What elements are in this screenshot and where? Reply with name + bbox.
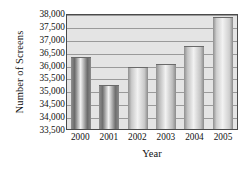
y-tick-label: 33,500 — [25, 126, 65, 135]
y-tick-label: 34,500 — [25, 100, 65, 109]
x-tick-label: 2001 — [95, 131, 124, 145]
bar-slot — [180, 15, 208, 129]
y-tick-label: 35,500 — [25, 74, 65, 83]
y-tick-label: 37,500 — [25, 22, 65, 31]
y-tick-label: 34,000 — [25, 113, 65, 122]
x-axis-title: Year — [66, 148, 238, 159]
bar-2001 — [99, 85, 119, 129]
y-tick-label: 36,500 — [25, 48, 65, 57]
y-tick-label: 35,000 — [25, 87, 65, 96]
bar-2000 — [71, 57, 91, 129]
y-axis-tick-labels: 38,00037,50037,00036,50036,00035,50035,0… — [25, 14, 65, 130]
x-tick-label: 2005 — [209, 131, 238, 145]
bar-2003 — [156, 64, 176, 129]
y-tick-label: 36,000 — [25, 61, 65, 70]
plot-area — [66, 14, 238, 130]
bar-slot — [95, 15, 123, 129]
bar-chart: Number of Screens 38,00037,50037,00036,5… — [0, 0, 249, 171]
y-tick-label: 38,000 — [25, 10, 65, 19]
y-tick-label: 37,000 — [25, 35, 65, 44]
bar-slot — [67, 15, 95, 129]
bar-slot — [124, 15, 152, 129]
x-tick-label: 2000 — [66, 131, 95, 145]
bar-2002 — [128, 67, 148, 129]
x-tick-label: 2003 — [152, 131, 181, 145]
bar-2004 — [184, 46, 204, 129]
x-axis-tick-labels: 200020012002200320042005 — [66, 131, 238, 145]
x-tick-label: 2004 — [180, 131, 209, 145]
bar-series — [67, 15, 237, 129]
bar-slot — [152, 15, 180, 129]
bar-2005 — [213, 17, 233, 129]
x-tick-label: 2002 — [123, 131, 152, 145]
bar-slot — [209, 15, 237, 129]
